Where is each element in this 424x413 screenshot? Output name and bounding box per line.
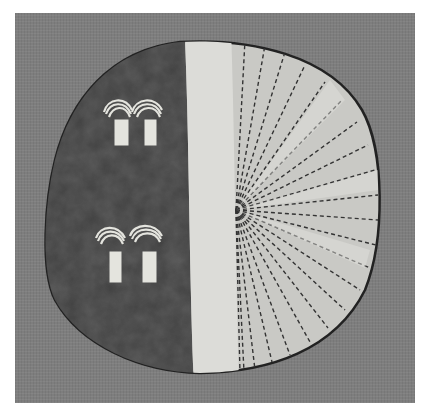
shield	[0, 0, 380, 413]
shield-illustration	[0, 0, 424, 413]
